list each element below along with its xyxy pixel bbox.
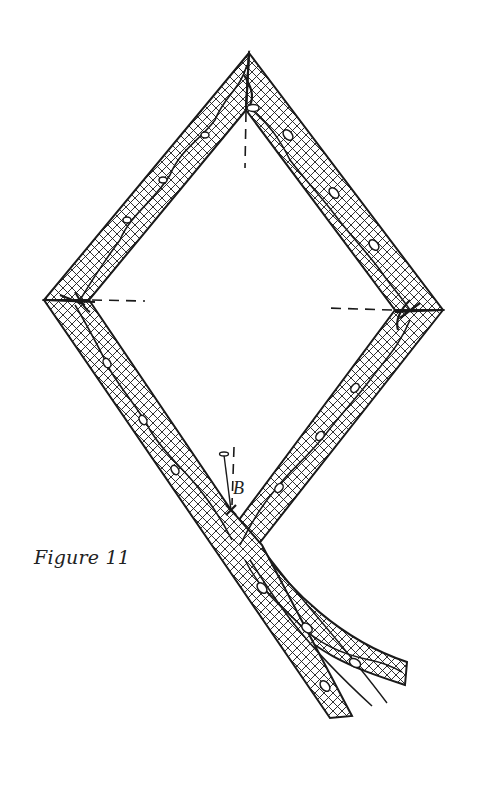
right-guide-line (327, 308, 392, 310)
top-guide-line (245, 112, 246, 168)
dashed-guides (92, 112, 392, 505)
band-lower-right-and-curved-tail (224, 310, 443, 685)
point-b-label: B (233, 478, 244, 499)
figure-caption: Figure 11 (34, 546, 130, 568)
kite-figure-svg (0, 0, 485, 791)
band-upper-right (246, 53, 443, 310)
kite-diagram (0, 0, 485, 791)
left-guide-line (92, 300, 145, 301)
band-lower-left-and-straight-tail (44, 300, 352, 718)
band-upper-left (44, 53, 249, 300)
